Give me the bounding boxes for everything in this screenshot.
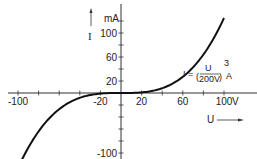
x-tick-label: -20 (93, 96, 108, 107)
data-curve (21, 18, 224, 159)
chart: -100-202060100 V 1006020-100 mA I U I = … (0, 0, 257, 159)
formula-denominator: 200V (199, 74, 220, 84)
x-axis-label-group: U (207, 114, 244, 125)
formula: I = ( U 200V ) 3 A (183, 58, 232, 84)
y-axis-label-group: I (88, 8, 93, 42)
y-tick-label: -100 (97, 148, 117, 159)
formula-exponent: 3 (224, 58, 229, 68)
x-axis-label: U (207, 114, 214, 125)
x-tick-label: 60 (177, 96, 189, 107)
formula-numerator: U (205, 63, 212, 73)
y-axis-label: I (88, 30, 92, 42)
x-tick-label: -100 (8, 96, 28, 107)
y-axis: 1006020-100 mA (97, 4, 124, 159)
x-tick-label: 20 (136, 96, 148, 107)
y-tick-label: 60 (106, 52, 118, 63)
y-tick-label: 100 (100, 28, 117, 39)
y-tick-label: 20 (106, 76, 118, 87)
formula-lhs: I = (183, 69, 193, 79)
y-axis-unit: mA (104, 13, 119, 24)
x-tick-label: 100 (216, 96, 233, 107)
formula-paren-close: ) (219, 72, 222, 82)
x-axis-unit: V (232, 96, 239, 107)
arrow-up-icon (90, 8, 93, 13)
arrow-right-icon (238, 119, 244, 122)
formula-unit: A (226, 71, 232, 81)
